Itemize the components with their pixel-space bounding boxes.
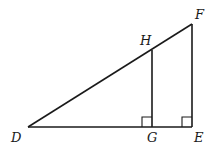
segment-df	[28, 24, 192, 127]
right-angle-marker-e	[182, 117, 192, 127]
right-angle-marker-g	[142, 117, 152, 127]
label-f: F	[194, 7, 205, 22]
label-h: H	[139, 33, 152, 48]
label-d: D	[10, 130, 22, 145]
label-e: E	[193, 130, 204, 145]
geometry-diagram: D G E F H	[0, 0, 212, 153]
label-g: G	[147, 130, 157, 145]
